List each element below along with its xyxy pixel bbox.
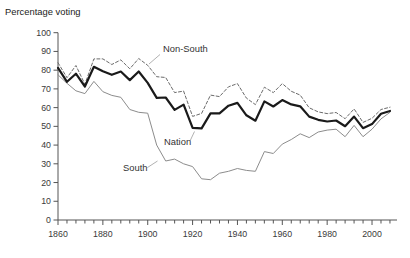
y-tick-label: 20 xyxy=(41,178,51,188)
x-tick-label: 1960 xyxy=(273,229,293,239)
y-tick-label: 80 xyxy=(41,65,51,75)
y-tick-label: 90 xyxy=(41,46,51,56)
y-tick-label: 50 xyxy=(41,121,51,131)
x-tick-label: 2000 xyxy=(362,229,382,239)
nation-series-label: Nation xyxy=(164,136,191,147)
x-tick-label: 1860 xyxy=(48,229,68,239)
y-tick-label: 10 xyxy=(41,196,51,206)
turnout-line-chart-canvas: Percentage voting01020304050607080901001… xyxy=(0,0,410,258)
y-tick-label: 0 xyxy=(46,215,51,225)
voter-turnout-chart: Percentage voting01020304050607080901001… xyxy=(0,0,410,258)
non-south-label-leader-line xyxy=(149,55,160,65)
non-south-series-label: Non-South xyxy=(163,43,208,54)
chart-title: Percentage voting xyxy=(5,6,81,17)
y-tick-label: 100 xyxy=(36,28,51,38)
x-tick-label: 1880 xyxy=(93,229,113,239)
nation-line xyxy=(58,67,390,129)
south-series-label: South xyxy=(123,162,148,173)
y-tick-label: 70 xyxy=(41,84,51,94)
non-south-line xyxy=(58,59,390,123)
south-label-leader-line xyxy=(148,161,158,168)
south-line xyxy=(58,75,390,180)
x-tick-label: 1920 xyxy=(183,229,203,239)
x-tick-label: 1900 xyxy=(138,229,158,239)
y-tick-label: 60 xyxy=(41,103,51,113)
y-tick-label: 30 xyxy=(41,159,51,169)
y-tick-label: 40 xyxy=(41,140,51,150)
x-tick-label: 1980 xyxy=(317,229,337,239)
x-tick-label: 1940 xyxy=(228,229,248,239)
